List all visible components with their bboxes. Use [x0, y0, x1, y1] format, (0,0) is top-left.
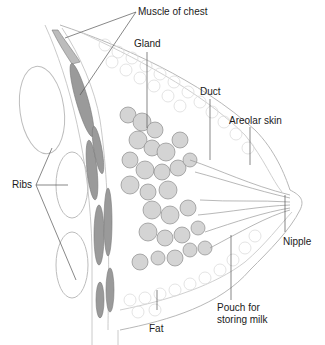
label-duct: Duct	[200, 86, 221, 98]
diagram-artwork	[0, 0, 325, 345]
label-fat: Fat	[149, 323, 163, 335]
label-nipple: Nipple	[283, 236, 311, 248]
label-areolar-skin: Areolar skin	[229, 115, 282, 127]
label-gland: Gland	[134, 38, 161, 50]
glands	[120, 107, 212, 270]
label-pouch-line2: storing milk	[217, 314, 268, 326]
breast-anatomy-diagram: Muscle of chest Gland Duct Areolar skin …	[0, 0, 325, 345]
label-pouch-line1: Pouch for	[217, 302, 260, 314]
label-ribs: Ribs	[12, 179, 32, 191]
label-muscle-of-chest: Muscle of chest	[138, 6, 207, 18]
milk-ducts	[190, 160, 290, 248]
